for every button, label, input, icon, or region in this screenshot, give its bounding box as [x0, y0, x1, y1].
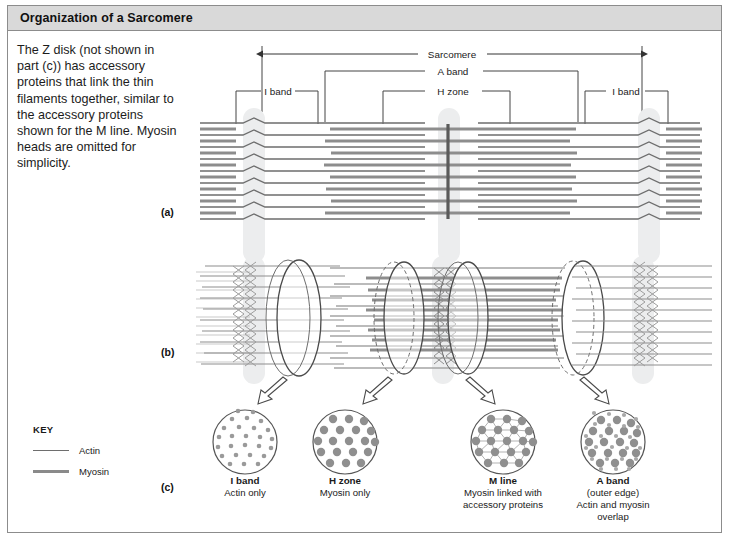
cross-section-m-line — [471, 410, 537, 474]
panel-b-sarcomere-3d — [196, 256, 712, 384]
bracket-label-sarcomere: Sarcomere — [428, 49, 477, 60]
bracket-label-h-zone: H zone — [437, 86, 469, 97]
panel-a-sarcomere-longitudinal — [200, 108, 702, 263]
sarcomere-figure: Organization of a Sarcomere The Z disk (… — [0, 0, 730, 541]
callout-arrow-a-band — [580, 377, 609, 404]
callout-arrow-m-line — [466, 377, 495, 404]
section-plane-i-band — [266, 260, 321, 376]
bracket-label-i-band-left: I band — [264, 86, 291, 97]
cross-section-a-band — [581, 410, 645, 474]
z-disk-right-band — [638, 108, 660, 263]
callout-arrows — [258, 377, 609, 404]
bracket-label-i-band-right: I band — [612, 86, 639, 97]
callout-arrow-h-zone — [363, 377, 392, 404]
diagram-canvas: Sarcomere A band H zone I band — [0, 0, 730, 541]
cross-section-i-band — [213, 409, 277, 474]
callout-arrow-i-band — [258, 377, 287, 404]
bracket-label-a-band: A band — [438, 66, 469, 77]
z-disk-left-band — [243, 108, 265, 263]
cross-section-h-zone — [313, 410, 379, 474]
